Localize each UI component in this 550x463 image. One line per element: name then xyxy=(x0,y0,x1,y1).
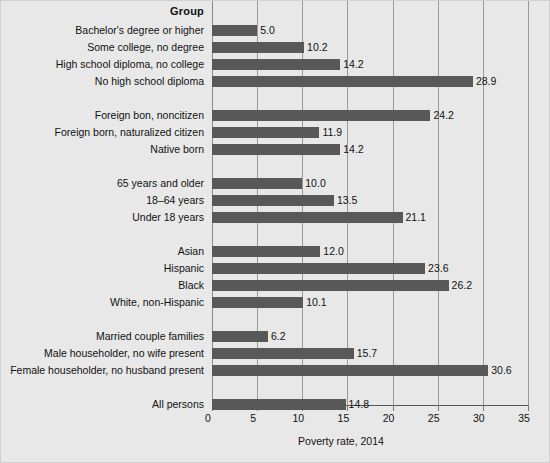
chart-row: Married couple families6.2 xyxy=(1,331,549,342)
bar-value-label: 14.2 xyxy=(343,58,363,70)
chart-row: Native born14.2 xyxy=(1,144,549,155)
x-axis-title: Poverty rate, 2014 xyxy=(1,435,550,447)
chart-row: Hispanic23.6 xyxy=(1,263,549,274)
bar xyxy=(212,59,340,70)
bar-value-label: 24.2 xyxy=(433,109,453,121)
bar xyxy=(212,263,425,274)
x-tick-label-10: 10 xyxy=(292,412,304,424)
category-label: Married couple families xyxy=(96,330,204,342)
chart-row: White, non-Hispanic10.1 xyxy=(1,297,549,308)
chart-row: Under 18 years21.1 xyxy=(1,212,549,223)
bar-value-label: 11.9 xyxy=(322,126,342,138)
chart-row: 18–64 years13.5 xyxy=(1,195,549,206)
bar xyxy=(212,280,449,291)
bar-value-label: 6.2 xyxy=(271,330,286,342)
x-tick-label-25: 25 xyxy=(428,412,440,424)
bar-value-label: 10.2 xyxy=(307,41,327,53)
bar xyxy=(212,76,473,87)
bar xyxy=(212,212,403,223)
group-column-header: Group xyxy=(170,5,204,17)
chart-row: Male householder, no wife present15.7 xyxy=(1,348,549,359)
category-label: Hispanic xyxy=(164,262,204,274)
bar xyxy=(212,110,430,121)
x-axis-title-text: Poverty rate, 2014 xyxy=(168,435,384,447)
bar xyxy=(212,365,488,376)
x-tick-label-35: 35 xyxy=(518,412,530,424)
bar-value-label: 14.8 xyxy=(349,398,369,410)
bar xyxy=(212,348,354,359)
chart-row: Some college, no degree10.2 xyxy=(1,42,549,53)
bar-value-label: 14.2 xyxy=(343,143,363,155)
bar xyxy=(212,144,340,155)
category-label: Asian xyxy=(178,245,204,257)
category-label: 65 years and older xyxy=(117,177,204,189)
bar xyxy=(212,246,320,257)
chart-row: 65 years and older10.0 xyxy=(1,178,549,189)
chart-row: Bachelor's degree or higher5.0 xyxy=(1,25,549,36)
x-tick-label-20: 20 xyxy=(383,412,395,424)
category-label: White, non-Hispanic xyxy=(110,296,204,308)
chart-row: Asian12.0 xyxy=(1,246,549,257)
category-label: Under 18 years xyxy=(132,211,204,223)
poverty-rate-bar-chart: Group Poverty rate, 2014 05101520253035B… xyxy=(0,0,550,463)
bar-value-label: 5.0 xyxy=(260,24,275,36)
chart-row: Foreign bon, noncitizen24.2 xyxy=(1,110,549,121)
bar xyxy=(212,42,304,53)
bar xyxy=(212,331,268,342)
bar-value-label: 13.5 xyxy=(337,194,357,206)
category-label: No high school diploma xyxy=(95,75,204,87)
category-label: Black xyxy=(178,279,204,291)
chart-row: High school diploma, no college14.2 xyxy=(1,59,549,70)
category-label: Bachelor's degree or higher xyxy=(75,24,204,36)
bar-value-label: 10.0 xyxy=(305,177,325,189)
bar-value-label: 23.6 xyxy=(428,262,448,274)
x-tick-label-5: 5 xyxy=(250,412,256,424)
bar xyxy=(212,178,302,189)
x-tick-label-30: 30 xyxy=(473,412,485,424)
chart-row: Foreign born, naturalized citizen11.9 xyxy=(1,127,549,138)
bar-value-label: 26.2 xyxy=(452,279,472,291)
bar-value-label: 12.0 xyxy=(323,245,343,257)
chart-row: Black26.2 xyxy=(1,280,549,291)
bar xyxy=(212,127,319,138)
category-label: Some college, no degree xyxy=(87,41,204,53)
bar xyxy=(212,297,303,308)
bar xyxy=(212,25,257,36)
bar xyxy=(212,195,334,206)
x-tick-label-0: 0 xyxy=(205,412,211,424)
chart-row: Female householder, no husband present30… xyxy=(1,365,549,376)
bar-value-label: 21.1 xyxy=(406,211,426,223)
bar-value-label: 30.6 xyxy=(491,364,511,376)
category-label: Foreign bon, noncitizen xyxy=(95,109,204,121)
category-label: Female householder, no husband present xyxy=(10,364,204,376)
category-label: Native born xyxy=(150,143,204,155)
category-label: Male householder, no wife present xyxy=(44,347,204,359)
bar xyxy=(212,399,346,410)
chart-row: All persons14.8 xyxy=(1,399,549,410)
category-label: High school diploma, no college xyxy=(56,58,204,70)
bar-value-label: 15.7 xyxy=(357,347,377,359)
category-label: 18–64 years xyxy=(146,194,204,206)
chart-row: No high school diploma28.9 xyxy=(1,76,549,87)
x-tick-label-15: 15 xyxy=(338,412,350,424)
category-label: Foreign born, naturalized citizen xyxy=(55,126,204,138)
category-label: All persons xyxy=(152,398,204,410)
bar-value-label: 10.1 xyxy=(306,296,326,308)
bar-value-label: 28.9 xyxy=(476,75,496,87)
